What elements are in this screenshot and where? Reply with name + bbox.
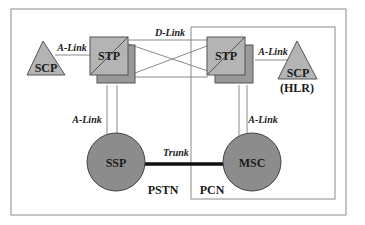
stp-left-label: STP: [98, 49, 120, 63]
pcn-region-label: PCN: [200, 183, 225, 197]
scp-right-label: SCP: [287, 66, 310, 80]
d-link-label: D-Link: [154, 27, 185, 38]
trunk-label: Trunk: [163, 147, 189, 158]
stp-right-node: STP: [207, 37, 253, 83]
ss7-network-diagram: SCP STP STP SCP (HLR) SSP MSC A-Link A-L…: [0, 0, 365, 225]
msc-label: MSC: [239, 156, 266, 170]
a-link-lines-vertical: [107, 85, 247, 136]
a-link-label-bottom-left: A-Link: [71, 114, 101, 125]
pstn-region-label: PSTN: [148, 183, 179, 197]
ssp-label: SSP: [106, 156, 127, 170]
d-link-lines: [128, 40, 208, 77]
a-link-label-top-left: A-Link: [56, 42, 86, 53]
stp-left-node: STP: [90, 37, 135, 83]
msc-node: MSC: [223, 133, 281, 191]
a-link-label-bottom-right: A-Link: [247, 114, 277, 125]
scp-left-label: SCP: [35, 61, 58, 75]
scp-right-sublabel: (HLR): [280, 81, 314, 95]
stp-right-label: STP: [215, 49, 237, 63]
a-link-label-top-right: A-Link: [257, 46, 287, 57]
ssp-node: SSP: [87, 133, 145, 191]
